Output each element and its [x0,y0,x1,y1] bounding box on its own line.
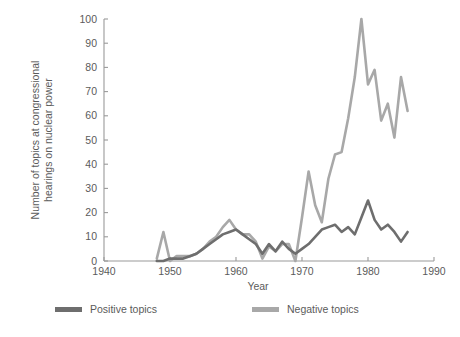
y-tick-label: 60 [85,109,97,121]
x-tick-label: 1960 [224,265,248,277]
y-tick-label: 80 [85,61,97,73]
x-axis-ticks: 194019501960197019801990 [92,257,446,277]
x-tick-label: 1940 [92,265,116,277]
series-line-positive-topics [157,201,408,262]
y-tick-label: 20 [85,206,97,218]
y-tick-label: 50 [85,134,97,146]
y-tick-label: 70 [85,85,97,97]
legend-label-positive: Positive topics [90,303,157,315]
x-axis-title: Year [247,280,269,292]
legend-swatch-negative [252,307,279,312]
y-axis-title-line2: hearings on nuclear power [42,78,54,202]
x-tick-label: 1980 [356,265,380,277]
plot-series-group [157,19,408,261]
y-tick-label: 40 [85,158,97,170]
nuclear-power-hearings-line-chart: 0102030405060708090100 19401950196019701… [0,0,460,337]
chart-container: 0102030405060708090100 19401950196019701… [0,0,460,337]
x-tick-label: 1990 [422,265,446,277]
y-tick-label: 10 [85,230,97,242]
legend-swatch-positive [55,307,82,312]
x-tick-label: 1970 [290,265,314,277]
y-tick-label: 90 [85,37,97,49]
chart-legend: Positive topics Negative topics [55,303,359,315]
series-line-negative-topics [157,19,408,261]
y-tick-label: 100 [79,13,97,25]
y-tick-label: 30 [85,182,97,194]
legend-label-negative: Negative topics [287,303,359,315]
x-tick-label: 1950 [158,265,182,277]
y-axis-title-line1: Number of topics at congressional [29,61,41,220]
